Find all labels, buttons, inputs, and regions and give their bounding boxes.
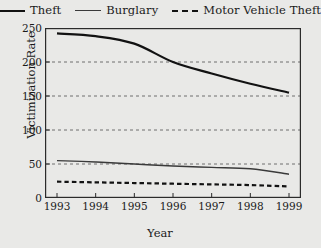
x-tick-label: 1993 bbox=[37, 201, 77, 212]
x-tick-label: 1995 bbox=[114, 201, 154, 212]
x-axis-title: Year bbox=[0, 226, 320, 240]
x-tick-label: 1996 bbox=[153, 201, 193, 212]
x-tick-label: 1998 bbox=[230, 201, 270, 212]
x-tick-label: 1999 bbox=[269, 201, 309, 212]
x-tick-label: 1994 bbox=[76, 201, 116, 212]
x-tick-label: 1997 bbox=[192, 201, 232, 212]
